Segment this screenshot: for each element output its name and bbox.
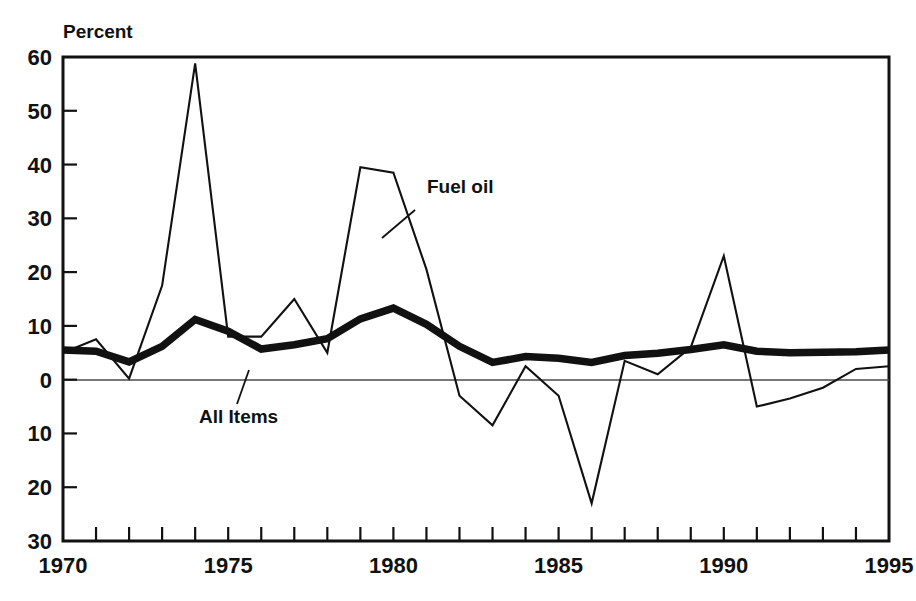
plot-frame	[63, 57, 889, 541]
x-tick-label: 1990	[699, 553, 748, 578]
x-tick-label: 1980	[369, 553, 418, 578]
y-tick-label: 30	[28, 529, 52, 554]
series-line-fuel-oil	[63, 63, 889, 503]
all-items-leader-line	[237, 370, 249, 404]
x-tick-label: 1995	[865, 553, 914, 578]
x-axis-tick-labels: 197019751980198519901995	[39, 553, 914, 578]
y-tick-label: 20	[28, 475, 52, 500]
line-chart: Percent 6050403020100102030 197019751980…	[0, 0, 916, 601]
y-tick-label: 50	[28, 99, 52, 124]
y-axis-title: Percent	[63, 21, 133, 42]
y-tick-label: 10	[28, 421, 52, 446]
y-axis-ticks	[63, 111, 77, 487]
y-tick-label: 60	[28, 45, 52, 70]
x-tick-label: 1975	[204, 553, 253, 578]
y-tick-label: 40	[28, 153, 52, 178]
series-label-fuel-oil: Fuel oil	[427, 176, 494, 197]
y-axis-tick-labels: 6050403020100102030	[28, 45, 52, 554]
y-tick-label: 0	[40, 368, 52, 393]
series-label-all-items: All Items	[199, 406, 278, 427]
x-tick-label: 1985	[534, 553, 583, 578]
x-tick-label: 1970	[39, 553, 88, 578]
y-tick-label: 10	[28, 314, 52, 339]
series-line-all-items	[63, 308, 889, 362]
chart-container: Percent 6050403020100102030 197019751980…	[0, 0, 916, 601]
y-tick-label: 20	[28, 260, 52, 285]
x-axis-ticks	[96, 527, 856, 541]
y-tick-label: 30	[28, 206, 52, 231]
